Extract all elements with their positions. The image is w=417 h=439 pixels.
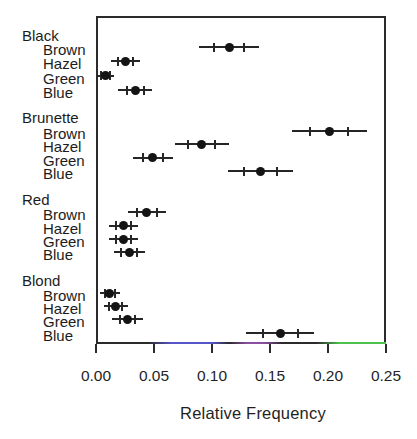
estimate-dot [119, 235, 128, 244]
estimate-dot [225, 43, 234, 52]
se-tick [347, 127, 349, 136]
x-axis-tick [153, 344, 155, 353]
se-tick [115, 221, 117, 230]
x-axis-tick-label: 0.05 [131, 367, 177, 385]
estimate-dot [105, 289, 114, 298]
estimate-dot [131, 86, 140, 95]
estimate-dot [119, 221, 128, 230]
se-tick [309, 127, 311, 136]
estimate-dot [121, 57, 130, 66]
x-axis-tick [385, 344, 387, 353]
x-axis-title: Relative Frequency [170, 404, 336, 423]
hair-group-label: Brunette [22, 109, 79, 126]
x-axis-tick [327, 344, 329, 353]
x-axis-tick-label: 0.20 [305, 367, 351, 385]
se-tick [134, 315, 136, 324]
x-axis-tick [269, 344, 271, 353]
x-axis-tick-label: 0.15 [247, 367, 293, 385]
se-tick [162, 153, 164, 162]
eye-category-label: Blue [43, 165, 73, 182]
estimate-dot [276, 329, 285, 338]
eye-category-label: Blue [43, 327, 73, 344]
se-tick [276, 167, 278, 176]
se-tick [243, 167, 245, 176]
x-axis-tick-label: 0.10 [189, 367, 235, 385]
eye-category-label: Blue [43, 84, 73, 101]
se-tick [115, 235, 117, 244]
se-tick [119, 315, 121, 324]
se-tick [136, 208, 138, 217]
estimate-dot [125, 248, 134, 257]
eye-category-label: Blue [43, 246, 73, 263]
estimate-dot [197, 140, 206, 149]
se-tick [213, 43, 215, 52]
se-tick [156, 208, 158, 217]
se-tick [121, 302, 123, 311]
estimate-dot [123, 315, 132, 324]
x-axis-tick-label: 0.25 [363, 367, 409, 385]
se-tick [214, 140, 216, 149]
estimate-dot [256, 167, 265, 176]
x-axis-tick [95, 344, 97, 353]
se-tick [243, 43, 245, 52]
se-tick [130, 235, 132, 244]
se-tick [130, 221, 132, 230]
se-tick [136, 248, 138, 257]
se-tick [126, 86, 128, 95]
x-axis-tick-label: 0.00 [73, 367, 119, 385]
se-tick [132, 57, 134, 66]
se-tick [114, 289, 116, 298]
se-tick [187, 140, 189, 149]
se-tick [297, 329, 299, 338]
se-tick [120, 248, 122, 257]
se-tick [142, 153, 144, 162]
hair-eye-dot-plot: 0.000.050.100.150.200.25BlackBrownHazelG… [0, 0, 417, 439]
se-tick [262, 329, 264, 338]
estimate-dot [111, 302, 120, 311]
plot-box [96, 16, 386, 344]
se-tick [143, 86, 145, 95]
estimate-dot [325, 127, 334, 136]
se-tick [117, 57, 119, 66]
x-axis-line [96, 342, 386, 344]
x-axis-tick [211, 344, 213, 353]
estimate-dot [142, 208, 151, 217]
